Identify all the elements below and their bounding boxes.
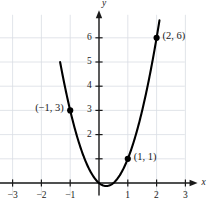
x-tick-label: −2 — [36, 191, 46, 201]
y-axis-label: y — [102, 0, 106, 9]
gridlines — [0, 15, 185, 197]
y-tick-label: 6 — [87, 33, 92, 43]
data-point — [67, 107, 73, 113]
x-tick-label: 2 — [154, 191, 159, 201]
x-axis-label: x — [202, 178, 206, 188]
y-tick-label: 3 — [87, 105, 92, 115]
data-point — [154, 35, 160, 41]
x-tick-label: −3 — [8, 191, 18, 201]
x-tick-label: 1 — [125, 191, 130, 201]
x-tick-label: −1 — [65, 191, 75, 201]
y-tick-label: 4 — [87, 81, 92, 91]
point-label: (−1, 3) — [35, 103, 64, 114]
y-tick-label: 2 — [87, 130, 92, 140]
y-tick-label: 5 — [87, 57, 92, 67]
data-point — [125, 156, 131, 162]
x-axis-arrowhead — [190, 180, 198, 186]
point-label: (2, 6) — [163, 31, 186, 42]
y-axis-arrowhead — [96, 10, 102, 18]
point-label: (1, 1) — [134, 152, 157, 163]
x-tick-label: 3 — [183, 191, 188, 201]
graph-figure: (−1, 3)(1, 1)(2, 6)−3−2−112323456xy — [0, 0, 208, 211]
